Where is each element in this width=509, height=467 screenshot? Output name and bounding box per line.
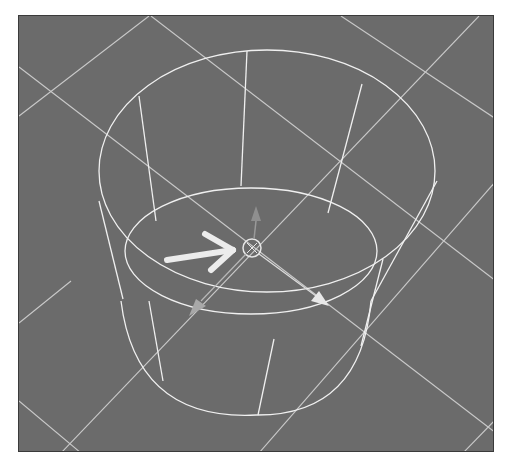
3d-viewport[interactable]: 3D perspective viewport: [18, 15, 494, 452]
move-gizmo[interactable]: [189, 206, 329, 316]
cylinder-bottom-cap: [125, 188, 377, 314]
y-axis-arrow-icon: [251, 206, 261, 221]
ground-grid: [19, 16, 494, 452]
z-axis-arrow-icon: [189, 299, 206, 316]
annotation-arrow-icon: [167, 234, 233, 270]
